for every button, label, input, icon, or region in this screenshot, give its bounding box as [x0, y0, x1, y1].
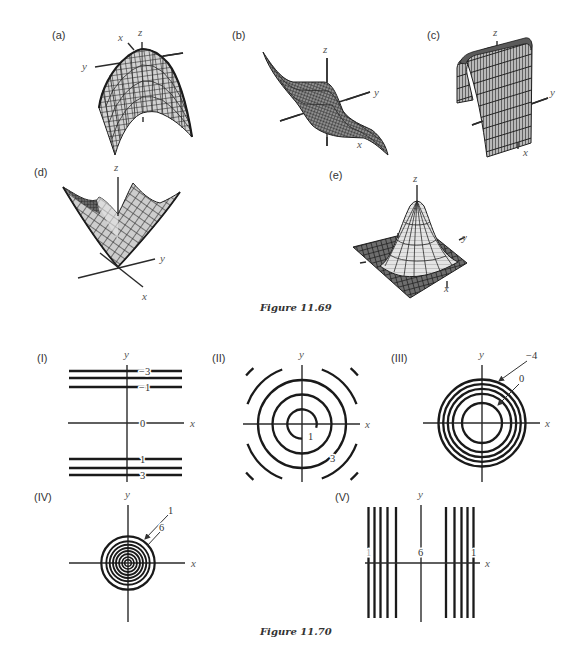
panel-label-III: (III)	[391, 352, 408, 364]
axis-tick	[360, 262, 366, 263]
y-axis-visible	[163, 53, 183, 56]
panel-label-c: (c)	[427, 29, 440, 41]
contour-panel-II: (II) 1 3 y x	[212, 348, 370, 482]
panel-label-IV: (IV)	[34, 491, 52, 503]
x-axis	[128, 43, 134, 50]
axis-label-y: y	[417, 488, 423, 500]
panel-label-II: (II)	[212, 352, 225, 364]
contour-label: 3	[140, 470, 145, 481]
axis-label-x: x	[141, 290, 147, 302]
textbook-figure-page: (a) x z y	[0, 0, 585, 658]
figures-canvas: (a) x z y	[0, 0, 585, 658]
figure-11-69: (a) x z y	[34, 26, 555, 313]
contour-label: −3	[139, 366, 150, 377]
y-axis-visible	[531, 98, 548, 104]
axis-label-z: z	[137, 26, 143, 38]
surface-panel-b: (b) z y x	[232, 29, 388, 155]
surface-panel-a: (a) x z y	[52, 26, 192, 155]
axis-label-y: y	[373, 86, 379, 98]
axis-label-y: y	[549, 86, 555, 98]
contour-panel-I: (I) −3 −1 0 1 3 y x	[37, 348, 195, 482]
panel-label-I: (I)	[37, 352, 47, 364]
y-axis-visible	[280, 115, 300, 122]
contour-lines	[68, 371, 184, 475]
axis-label-y: y	[298, 348, 304, 360]
axis-label-x: x	[443, 282, 449, 294]
contour-label: −1	[139, 382, 150, 393]
figure-11-70: (I) −3 −1 0 1 3 y x (II)	[34, 348, 550, 637]
contour-label: −4	[526, 350, 538, 361]
axis-label-x: x	[117, 31, 123, 43]
contour-label: 1	[471, 547, 476, 558]
contour-label: 3	[330, 453, 335, 464]
axis-label-z: z	[492, 26, 498, 38]
surface-panel-d: (d) z y x	[34, 161, 180, 302]
panel-label-d: (d)	[34, 166, 47, 178]
contour-label: 0	[519, 373, 524, 384]
panel-label-V: (V)	[335, 491, 350, 503]
axis-label-z: z	[322, 43, 328, 55]
contour-label: 1	[308, 431, 313, 442]
panel-label-e: (e)	[329, 169, 342, 181]
s-sheet-surface	[263, 52, 388, 155]
contour-panel-V: (V) 1 6 1 y x	[335, 488, 490, 622]
axis-label-y: y	[124, 488, 130, 500]
dome-surface	[99, 49, 192, 155]
contour-label: 6	[159, 522, 164, 533]
y-axis-visible	[472, 121, 483, 125]
axis-label-x: x	[522, 146, 528, 158]
axis-label-y: y	[81, 60, 87, 72]
y-axis-visible	[346, 92, 370, 100]
axis-label-y: y	[478, 348, 484, 360]
axis-label-x: x	[190, 557, 196, 569]
figure-caption: Figure 11.70	[259, 626, 332, 637]
contour-label: 0	[140, 418, 145, 429]
contour-label: 1	[366, 547, 371, 558]
axis-label-x: x	[356, 138, 362, 150]
axis-label-y: y	[159, 252, 165, 264]
axis-label-y: y	[461, 231, 467, 243]
axis-label-x: x	[484, 557, 490, 569]
axis-label-x: x	[364, 418, 370, 430]
axis-label-x: x	[189, 417, 195, 429]
figure-caption: Figure 11.69	[259, 302, 332, 313]
axis-label-z: z	[113, 161, 119, 173]
contour-label: 6	[418, 547, 423, 558]
surface-panel-c: (c) z y x	[427, 26, 555, 158]
panel-label-b: (b)	[232, 29, 245, 41]
contour-panel-IV: (IV) 1 6 y x	[34, 488, 196, 622]
surface-panel-e: (e) z y x	[329, 169, 467, 298]
contour-label: 1	[140, 454, 145, 465]
leader-line	[147, 532, 160, 546]
axis-label-z: z	[412, 172, 418, 184]
contour-label: 1	[168, 505, 173, 516]
panel-label-a: (a)	[52, 29, 65, 41]
tent-front-surface	[467, 39, 532, 157]
axis-label-y: y	[123, 348, 129, 360]
axis-label-x: x	[544, 417, 550, 429]
contour-panel-III: (III) −4 0 y x	[391, 348, 550, 482]
